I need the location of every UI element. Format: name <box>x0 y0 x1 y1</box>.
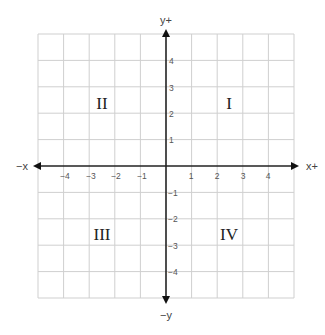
quadrant-iii-label: III <box>94 225 111 244</box>
x-negative-arrow-icon <box>33 162 41 170</box>
x-tick: 3 <box>241 171 246 181</box>
x-tick: 4 <box>266 171 271 181</box>
y-tick: 4 <box>169 56 174 66</box>
y-tick: −3 <box>168 241 178 251</box>
x-positive-arrow-icon <box>291 162 299 170</box>
y-tick: 2 <box>169 109 174 119</box>
y-tick: 3 <box>169 83 174 93</box>
x-positive-label: x+ <box>306 160 318 172</box>
x-negative-label: −x <box>16 160 28 172</box>
y-negative-arrow-icon <box>162 296 170 304</box>
y-tick: 1 <box>169 135 174 145</box>
y-negative-label: −y <box>160 309 172 321</box>
x-tick: 1 <box>189 171 194 181</box>
y-positive-label: y+ <box>160 14 172 26</box>
y-tick: −1 <box>168 188 178 198</box>
y-tick: −4 <box>168 267 178 277</box>
x-tick: 2 <box>215 171 220 181</box>
y-tick: −2 <box>168 214 178 224</box>
coordinate-plane: y+ −y −x x+ −4 −3 −2 −1 1 2 3 4 4 3 2 1 … <box>0 0 325 335</box>
x-tick: −3 <box>86 171 96 181</box>
quadrant-i-label: I <box>226 94 232 113</box>
quadrant-ii-label: II <box>96 94 108 113</box>
x-tick: −1 <box>137 171 147 181</box>
x-tick: −4 <box>60 171 70 181</box>
quadrant-iv-label: IV <box>220 225 239 244</box>
y-positive-arrow-icon <box>162 29 170 37</box>
x-tick: −2 <box>111 171 121 181</box>
